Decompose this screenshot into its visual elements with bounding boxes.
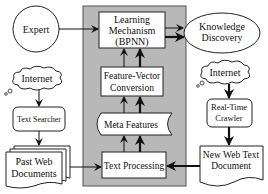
expert-label: Expert — [23, 24, 50, 35]
new-web-document-node: New Web Text Document — [200, 146, 263, 186]
crawler-line-1: Real-Time — [211, 102, 247, 112]
internet-cloud-right: Internet — [197, 60, 250, 87]
meta-features-node: Meta Features — [97, 113, 172, 135]
knowledge-line-2: Discovery — [201, 32, 242, 43]
feature-vector-node: Feature-Vector Conversion — [101, 67, 163, 96]
knowledge-line-1: Knowledge — [199, 21, 246, 32]
knowledge-discovery-node: Knowledge Discovery — [184, 13, 260, 53]
text-processing-node: Text Processing — [102, 152, 166, 178]
text-processing-label: Text Processing — [104, 161, 165, 171]
new-doc-line-2: Document — [211, 161, 251, 171]
feature-vector-line-1: Feature-Vector — [104, 71, 161, 81]
past-docs-line-1: Past Web — [15, 156, 52, 167]
feature-vector-line-2: Conversion — [110, 83, 154, 93]
text-searcher-label: Text Searcher — [17, 115, 61, 124]
learning-mechanism-node: Learning Mechanism (BPNN) — [99, 12, 165, 48]
new-doc-line-1: New Web Text — [203, 150, 260, 160]
learning-line-3: (BPNN) — [115, 36, 148, 48]
internet-left-label: Internet — [21, 73, 52, 84]
internet-cloud-left: Internet — [5, 66, 62, 95]
learning-line-2: Mechanism — [109, 25, 156, 36]
internet-right-label: Internet — [209, 67, 240, 78]
learning-line-1: Learning — [114, 14, 150, 25]
past-web-documents-node: Past Web Documents — [6, 146, 70, 188]
meta-features-label: Meta Features — [104, 120, 158, 130]
real-time-crawler-node: Real-Time Crawler — [207, 99, 252, 127]
expert-node: Expert — [13, 6, 59, 52]
system-diagram: Learning Mechanism (BPNN) Feature-Vector… — [0, 0, 268, 194]
crawler-line-2: Crawler — [215, 113, 243, 123]
text-searcher-node: Text Searcher — [13, 107, 65, 131]
past-docs-line-2: Documents — [11, 168, 57, 179]
